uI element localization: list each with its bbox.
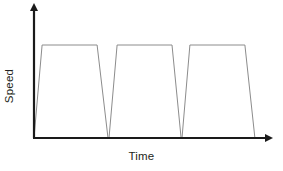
x-axis-arrowhead [265,134,273,142]
trapezoid-cycle-1 [34,45,108,138]
speed-time-graph-figure: Speed Time [0,0,283,171]
x-axis-label: Time [0,150,283,162]
trapezoid-cycle-3 [182,45,255,138]
y-axis-label: Speed [3,64,15,108]
y-axis-arrowhead [30,3,38,11]
trapezoid-cycle-2 [109,45,181,138]
plot-area [0,0,283,171]
